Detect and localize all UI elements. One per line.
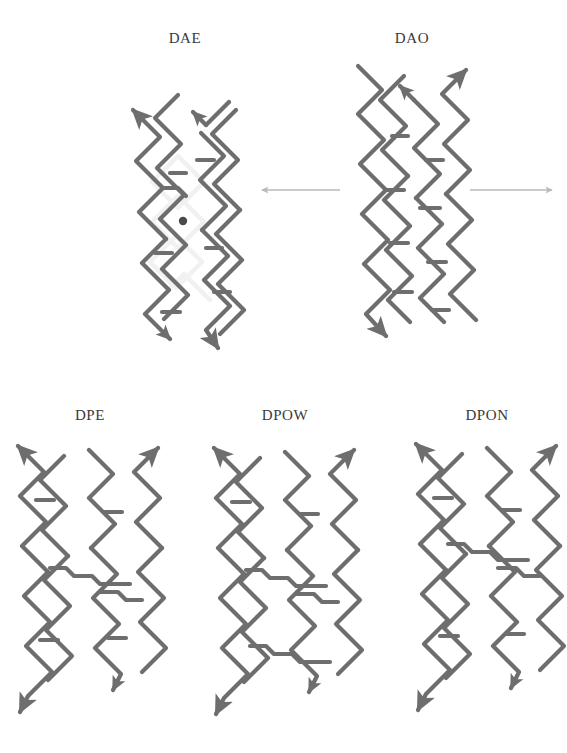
dpon-strand-left	[416, 444, 470, 710]
motif-label-dae: DAE	[169, 30, 202, 47]
motif-label-dpe: DPE	[75, 407, 105, 424]
dpow-strand-left	[214, 448, 268, 714]
dpe-strand-left	[18, 446, 72, 712]
motif-label-dao: DAO	[395, 30, 429, 47]
motif-label-dpon: DPON	[465, 407, 508, 424]
motif-dae	[133, 95, 244, 348]
motif-dpe	[18, 446, 166, 712]
motif-dpow	[214, 448, 362, 714]
motif-dao	[358, 66, 476, 336]
dao-strand-right	[400, 70, 476, 322]
motif-dpon	[416, 444, 564, 710]
dna-tile-motif-figure	[0, 0, 567, 753]
dae-strand-left	[133, 95, 188, 339]
dae-center-marker	[179, 217, 187, 225]
motif-label-dpow: DPOW	[262, 407, 309, 424]
dpe-strand-right	[89, 448, 166, 690]
dao-strand-left	[358, 66, 412, 336]
